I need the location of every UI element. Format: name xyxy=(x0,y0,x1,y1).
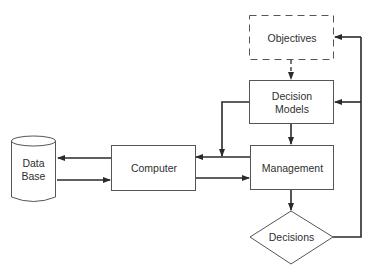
decisions-label: Decisions xyxy=(269,231,315,244)
computer-label: Computer xyxy=(131,162,177,175)
objectives-label: Objectives xyxy=(267,32,316,45)
database-label: Data Base xyxy=(22,157,46,183)
objectives-node: Objectives xyxy=(250,16,334,60)
decision-models-label: Decision Models xyxy=(272,90,312,116)
edge-decisions-feedback xyxy=(333,37,361,237)
decision-models-node: Decision Models xyxy=(250,81,334,124)
edge-decision-models-to-computer xyxy=(222,102,249,156)
management-label: Management xyxy=(262,162,323,175)
database-node: Data Base xyxy=(11,148,56,192)
management-node: Management xyxy=(251,146,334,190)
computer-node: Computer xyxy=(112,146,196,191)
decisions-node: Decisions xyxy=(250,224,333,250)
